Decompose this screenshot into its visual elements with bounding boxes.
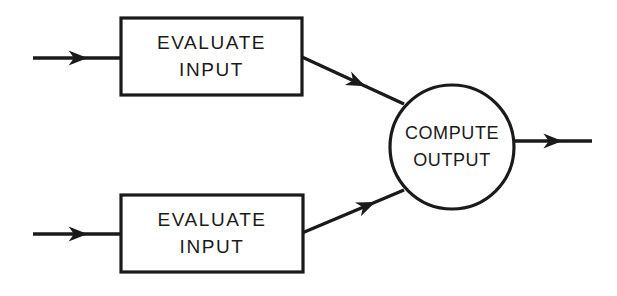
evaluate-input-bottom-label-line1: EVALUATE xyxy=(157,209,266,230)
bottom-to-compute-arrowhead-icon xyxy=(355,195,378,216)
evaluate-input-top-label-line2: INPUT xyxy=(179,59,244,80)
evaluate-input-bottom-box xyxy=(121,195,303,272)
compute-output-label-line1: COMPUTE xyxy=(405,123,499,143)
node-compute-output[interactable]: COMPUTE OUTPUT xyxy=(390,85,514,209)
evaluate-input-top-box xyxy=(121,18,302,95)
compute-output-circle xyxy=(390,85,514,209)
node-evaluate-input-top[interactable]: EVALUATE INPUT xyxy=(121,18,302,95)
top-to-compute-arrowhead-icon xyxy=(345,71,369,93)
bottom-to-compute-line xyxy=(302,190,404,233)
evaluate-input-top-label-line1: EVALUATE xyxy=(157,32,266,53)
connector-bottom-to-compute xyxy=(302,190,404,233)
connector-top-to-compute xyxy=(302,57,404,104)
connector-input-arrow-bottom xyxy=(33,227,121,242)
evaluate-input-bottom-label-line2: INPUT xyxy=(180,236,245,257)
compute-output-label-line2: OUTPUT xyxy=(413,150,491,170)
connector-input-arrow-top xyxy=(33,51,121,66)
node-evaluate-input-bottom[interactable]: EVALUATE INPUT xyxy=(121,195,303,272)
flow-diagram: EVALUATE INPUT EVALUATE INPUT COMPUTE OU… xyxy=(0,0,617,296)
connector-output-arrow xyxy=(514,134,592,149)
flow-diagram-canvas: EVALUATE INPUT EVALUATE INPUT COMPUTE OU… xyxy=(0,0,617,296)
